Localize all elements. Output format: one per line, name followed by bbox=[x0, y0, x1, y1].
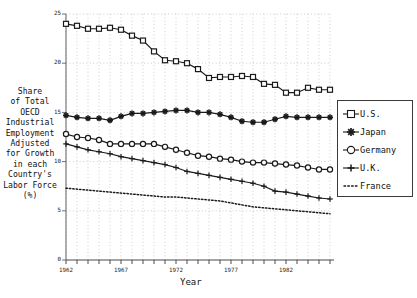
legend-label-france: France bbox=[360, 181, 391, 191]
asterisk-marker bbox=[343, 126, 359, 138]
svg-text:20: 20 bbox=[54, 59, 61, 65]
legend-item-japan[interactable]: Japan bbox=[338, 123, 412, 141]
svg-text:15: 15 bbox=[54, 109, 61, 115]
svg-text:1967: 1967 bbox=[114, 267, 128, 273]
svg-text:10: 10 bbox=[54, 158, 61, 164]
legend-label-japan: Japan bbox=[360, 127, 386, 137]
series-france bbox=[66, 188, 330, 214]
plus-marker bbox=[343, 162, 359, 174]
svg-text:0: 0 bbox=[58, 256, 62, 262]
svg-text:1972: 1972 bbox=[169, 267, 183, 273]
svg-text:1977: 1977 bbox=[224, 267, 238, 273]
legend-label-uk: U.K. bbox=[360, 163, 381, 173]
series-germany bbox=[63, 131, 332, 172]
svg-text:1982: 1982 bbox=[279, 267, 293, 273]
legend-item-uk[interactable]: U.K. bbox=[338, 159, 412, 177]
legend-item-france[interactable]: France bbox=[338, 177, 412, 195]
dotted-line-marker bbox=[343, 180, 359, 192]
x-axis-label: Year bbox=[180, 277, 202, 287]
legend-item-us[interactable]: U.S. bbox=[338, 105, 412, 123]
svg-text:5: 5 bbox=[58, 207, 62, 213]
svg-text:1962: 1962 bbox=[59, 267, 73, 273]
legend-label-germany: Germany bbox=[360, 145, 396, 155]
legend: U.S. Japan Germany U.K. France bbox=[337, 100, 413, 197]
svg-text:25: 25 bbox=[54, 10, 61, 16]
circle-marker bbox=[343, 144, 359, 156]
legend-item-germany[interactable]: Germany bbox=[338, 141, 412, 159]
line-chart: Share of Total OECD Industrial Employmen… bbox=[0, 0, 417, 298]
legend-label-us: U.S. bbox=[360, 109, 381, 119]
square-marker bbox=[343, 108, 359, 120]
